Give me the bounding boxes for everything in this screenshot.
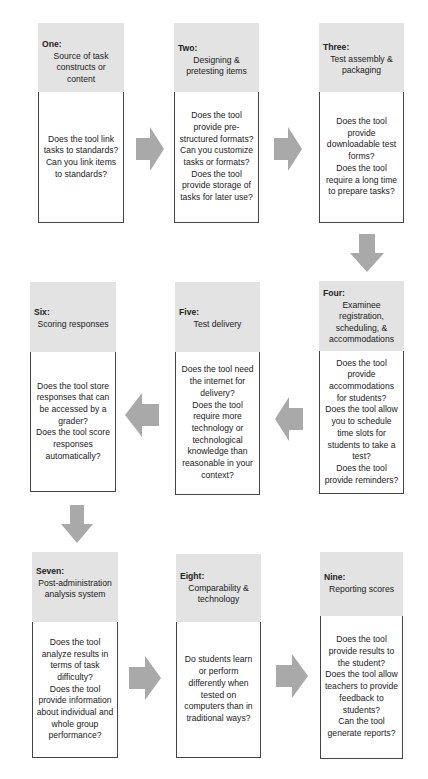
step-number: Three: — [323, 42, 400, 54]
question: Do students learn or perform differently… — [180, 654, 257, 724]
arrow-right-icon — [136, 127, 164, 171]
question: Does the tool allow teachers to provide … — [324, 669, 399, 716]
step-nine-header: Nine: Reporting scores — [320, 552, 403, 616]
step-number: Two: — [178, 43, 255, 55]
question: Does the tool link tasks to standards? — [42, 134, 120, 157]
question: Can the tool generate reports? — [324, 716, 399, 739]
step-three-questions: Does the tool provide downloadable test … — [319, 92, 404, 223]
arrow-right-icon — [129, 656, 161, 700]
step-two-questions: Does the tool provide pre-structured for… — [174, 92, 259, 223]
question: Does the tool provide information about … — [36, 684, 114, 743]
question: Does the tool provide downloadable test … — [323, 116, 400, 163]
step-seven-header: Seven: Post-administration analysis syst… — [32, 552, 118, 622]
step-title: Scoring responses — [34, 319, 112, 331]
arrow-left-icon — [125, 393, 159, 437]
step-five: Five: Test delivery Does the tool need t… — [175, 282, 260, 495]
step-number: One: — [42, 39, 120, 51]
step-three: Three: Test assembly & packaging Does th… — [319, 23, 404, 223]
step-one-questions: Does the tool link tasks to standards? C… — [38, 92, 124, 223]
step-eight: Eight: Comparability & technology Do stu… — [176, 554, 261, 758]
arrow-down-icon — [350, 234, 384, 272]
step-five-questions: Does the tool need the internet for deli… — [175, 352, 260, 495]
step-six-header: Six: Scoring responses — [30, 282, 116, 352]
step-number: Four: — [323, 288, 400, 300]
question: Does the tool provide storage of tasks f… — [178, 169, 255, 204]
step-four-header: Four: Examinee registration, scheduling,… — [319, 281, 404, 351]
question: Does the tool store responses that can b… — [34, 381, 112, 428]
arrow-left-icon — [275, 397, 303, 441]
question: Does the tool provide accommodations for… — [323, 358, 400, 405]
arrow-right-icon — [276, 654, 308, 698]
step-one-header: One: Source of task constructs or conten… — [38, 23, 124, 92]
arrow-down-icon — [61, 505, 93, 543]
step-number: Five: — [179, 307, 256, 319]
step-number: Seven: — [36, 566, 114, 578]
question: Does the tool require more technology or… — [179, 400, 256, 482]
step-nine: Nine: Reporting scores Does the tool pro… — [320, 552, 403, 759]
step-two: Two: Designing & pretesting items Does t… — [174, 23, 259, 223]
step-number: Six: — [34, 307, 112, 319]
question: Does the tool allow you to schedule time… — [323, 404, 400, 463]
step-six: Six: Scoring responses Does the tool sto… — [30, 282, 116, 492]
step-title: Reporting scores — [324, 584, 399, 596]
step-eight-header: Eight: Comparability & technology — [176, 554, 261, 622]
arrow-right-icon — [274, 127, 302, 171]
step-title: Comparability & technology — [180, 583, 257, 606]
step-one: One: Source of task constructs or conten… — [38, 23, 124, 223]
step-title: Test assembly & packaging — [323, 54, 400, 77]
question: Does the tool provide results to the stu… — [324, 634, 399, 669]
question: Does the tool provide reminders? — [323, 463, 400, 486]
question: Can you customize tasks or formats? — [178, 145, 255, 168]
step-two-header: Two: Designing & pretesting items — [174, 23, 259, 92]
question: Does the tool score responses automatica… — [34, 427, 112, 462]
step-nine-questions: Does the tool provide results to the stu… — [320, 616, 403, 759]
question: Does the tool require a long time to pre… — [323, 163, 400, 198]
step-number: Eight: — [180, 571, 257, 583]
step-title: Source of task constructs or content — [42, 51, 120, 86]
step-title: Test delivery — [179, 319, 256, 331]
step-four-questions: Does the tool provide accommodations for… — [319, 351, 404, 494]
step-title: Examinee registration, scheduling, & acc… — [323, 300, 400, 346]
step-eight-questions: Do students learn or perform differently… — [176, 622, 261, 758]
step-five-header: Five: Test delivery — [175, 282, 260, 352]
question: Does the tool analyze results in terms o… — [36, 637, 114, 684]
step-title: Post-administration analysis system — [36, 578, 114, 601]
step-six-questions: Does the tool store responses that can b… — [30, 352, 116, 492]
question: Does the tool provide pre-structured for… — [178, 110, 255, 145]
step-number: Nine: — [324, 572, 399, 584]
step-three-header: Three: Test assembly & packaging — [319, 23, 404, 92]
step-seven-questions: Does the tool analyze results in terms o… — [32, 622, 118, 758]
question: Can you link items to standards? — [42, 157, 120, 180]
step-title: Designing & pretesting items — [178, 55, 255, 78]
question: Does the tool need the internet for deli… — [179, 364, 256, 399]
step-seven: Seven: Post-administration analysis syst… — [32, 552, 118, 758]
step-four: Four: Examinee registration, scheduling,… — [319, 281, 404, 494]
